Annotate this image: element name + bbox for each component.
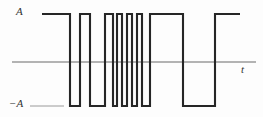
- signal-trace: [42, 14, 240, 106]
- time-axis-label: t: [241, 64, 244, 75]
- waveform-canvas: [0, 0, 263, 117]
- negative-amplitude-label: −A: [9, 98, 23, 109]
- positive-amplitude-label: A: [16, 6, 23, 17]
- waveform-figure: A −A t: [0, 0, 263, 117]
